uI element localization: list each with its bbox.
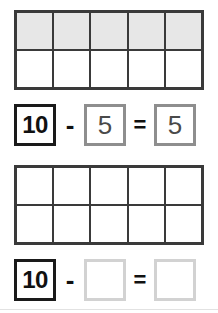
minus-sign: - xyxy=(56,112,84,138)
ten-frame-1 xyxy=(14,10,204,90)
ten-frame-cell[interactable] xyxy=(54,13,89,49)
subtrahend-box[interactable]: 5 xyxy=(84,104,126,146)
subtrahend-box[interactable] xyxy=(84,259,126,301)
ten-frame-cell[interactable] xyxy=(17,168,52,204)
minuend-box: 10 xyxy=(14,104,56,146)
equation-2: 10 - = xyxy=(14,256,210,304)
ten-frame-cell[interactable] xyxy=(166,206,201,242)
ten-frame-cell[interactable] xyxy=(129,13,164,49)
minus-sign: - xyxy=(56,267,84,293)
result-box[interactable]: 5 xyxy=(154,104,196,146)
ten-frame-cell[interactable] xyxy=(129,206,164,242)
worksheet: 10 - 5 = 5 10 - = xyxy=(0,0,218,313)
footer-divider xyxy=(0,309,218,310)
ten-frame-cell[interactable] xyxy=(129,168,164,204)
ten-frame-cell[interactable] xyxy=(91,51,126,87)
ten-frame-cell[interactable] xyxy=(54,206,89,242)
ten-frame-cell[interactable] xyxy=(17,206,52,242)
equation-1: 10 - 5 = 5 xyxy=(14,101,210,149)
ten-frame-cell[interactable] xyxy=(17,51,52,87)
equals-sign: = xyxy=(126,269,154,291)
ten-frame-cell[interactable] xyxy=(54,168,89,204)
ten-frame-cell[interactable] xyxy=(166,13,201,49)
ten-frame-cell[interactable] xyxy=(166,51,201,87)
ten-frame-cell[interactable] xyxy=(129,51,164,87)
ten-frame-cell[interactable] xyxy=(91,13,126,49)
equals-sign: = xyxy=(126,114,154,136)
ten-frame-2 xyxy=(14,165,204,245)
ten-frame-cell[interactable] xyxy=(91,168,126,204)
ten-frame-cell[interactable] xyxy=(54,51,89,87)
ten-frame-cell[interactable] xyxy=(91,206,126,242)
ten-frame-cell[interactable] xyxy=(166,168,201,204)
result-box[interactable] xyxy=(154,259,196,301)
minuend-box: 10 xyxy=(14,259,56,301)
ten-frame-cell[interactable] xyxy=(17,13,52,49)
